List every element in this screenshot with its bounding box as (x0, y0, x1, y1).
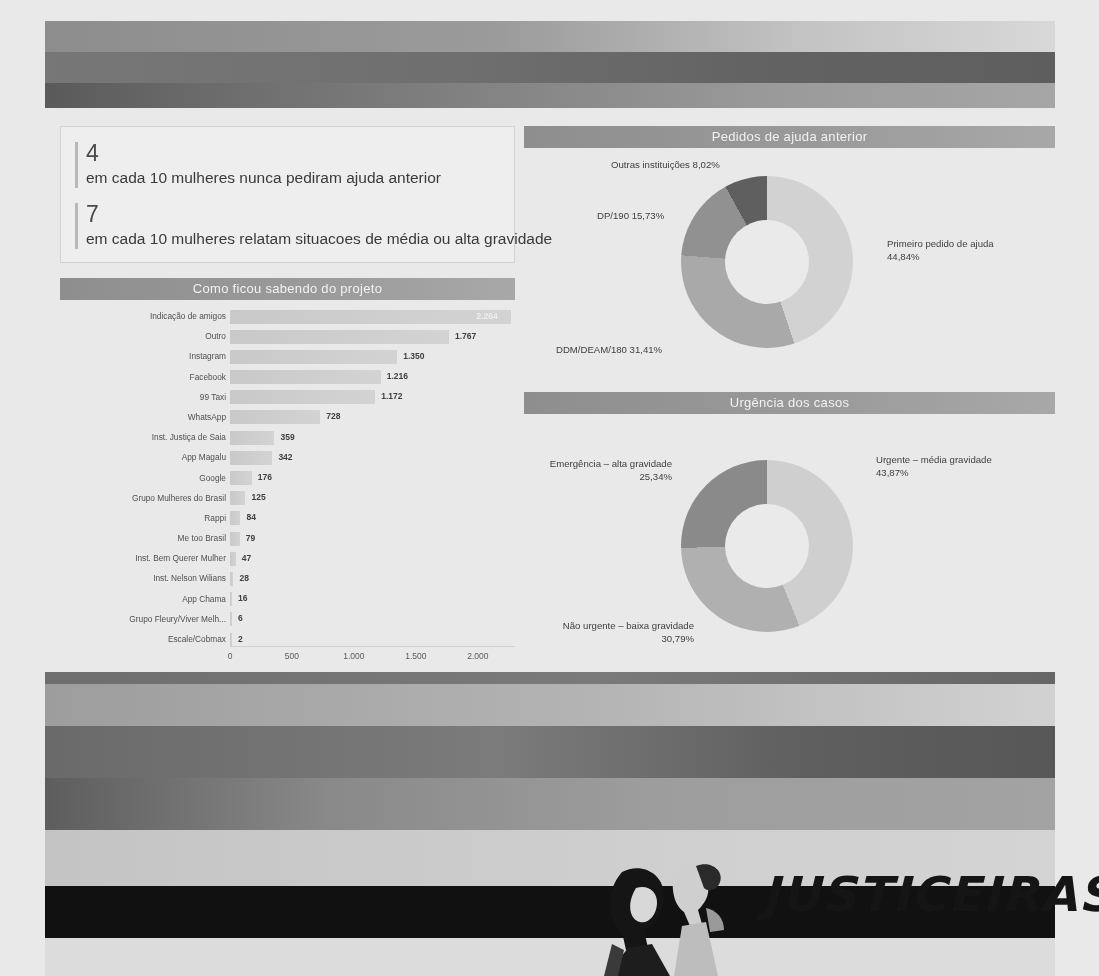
bar-fill (230, 612, 232, 626)
footer-band-2 (45, 684, 1055, 726)
bar-category-label: Inst. Bem Querer Mulher (56, 553, 226, 563)
bar-value-label: 28 (239, 573, 248, 583)
bar-value-label: 125 (251, 492, 265, 502)
bar-category-label: Outro (56, 331, 226, 341)
donut2-label-urgente: Urgente – média gravidade 43,87% (876, 454, 992, 479)
donut2-label-emergencia: Emergência – alta gravidade 25,34% (524, 458, 672, 483)
bar-row: Inst. Bem Querer Mulher47 (60, 550, 515, 570)
bar-track (230, 471, 515, 485)
donut1-hole (725, 220, 809, 304)
bar-fill (230, 633, 232, 647)
header-banner (45, 21, 1055, 108)
donut2-hole (725, 504, 809, 588)
bar-track (230, 532, 515, 546)
footer-band-3 (45, 726, 1055, 778)
bar-value-label: 176 (258, 472, 272, 482)
bar-fill (230, 330, 449, 344)
bar-category-label: Rappi (56, 513, 226, 523)
bar-category-label: Grupo Fleury/Viver Melh... (56, 614, 226, 624)
bar-value-label: 2.264 (477, 311, 498, 321)
bar-value-label: 84 (246, 512, 255, 522)
bar-track (230, 612, 515, 626)
bar-row: Me too Brasil79 (60, 530, 515, 550)
kpi-item-2: 7 em cada 10 mulheres relatam situacoes … (75, 201, 552, 249)
bar-track (230, 633, 515, 647)
kpi-text: em cada 10 mulheres nunca pediram ajuda … (86, 168, 441, 188)
bar-fill (230, 532, 240, 546)
bar-row: Grupo Fleury/Viver Melh...6 (60, 611, 515, 631)
header-band-3 (45, 83, 1055, 108)
axis-tick-label: 2.000 (467, 651, 488, 661)
donut1-label-outras: Outras instituições 8,02% (611, 159, 720, 172)
bar-value-label: 1.216 (387, 371, 408, 381)
bar-value-label: 6 (238, 613, 243, 623)
bar-category-label: Instagram (56, 351, 226, 361)
bar-fill (230, 572, 233, 586)
bar-fill (230, 471, 252, 485)
bar-row: Google176 (60, 470, 515, 490)
bar-track (230, 572, 515, 586)
bar-track (230, 491, 515, 505)
bar-row: WhatsApp728 (60, 409, 515, 429)
bar-fill (230, 350, 397, 364)
bar-category-label: Google (56, 473, 226, 483)
kpi-number: 4 (86, 140, 441, 166)
bar-category-label: App Chama (56, 594, 226, 604)
bar-row: Inst. Nelson Wilians28 (60, 570, 515, 590)
kpi-text: em cada 10 mulheres relatam situacoes de… (86, 229, 552, 249)
donut1-label-dp190: DP/190 15,73% (597, 210, 664, 223)
logo-wordmark: JUSTICEIRAS (765, 866, 1099, 922)
two-women-illustration (578, 852, 758, 976)
bar-category-label: Escale/Cobmax (56, 634, 226, 644)
bar-fill (230, 410, 320, 424)
donut2-label-naourgente: Não urgente – baixa gravidade 30,79% (519, 620, 694, 645)
kpi-card: 4 em cada 10 mulheres nunca pediram ajud… (60, 126, 515, 263)
bar-value-label: 79 (246, 533, 255, 543)
bar-category-label: WhatsApp (56, 412, 226, 422)
bar-chart-title: Como ficou sabendo do projeto (60, 278, 515, 300)
donut2-ring (681, 460, 853, 632)
donut1-label-primeiro: Primeiro pedido de ajuda 44,84% (887, 238, 994, 263)
donut-chart-panel-urgencia: Urgência dos casos Emergência – alta gra… (524, 392, 1055, 660)
bar-track (230, 410, 515, 424)
bar-category-label: 99 Taxi (56, 392, 226, 402)
dashboard-page: 4 em cada 10 mulheres nunca pediram ajud… (0, 0, 1099, 976)
bar-track (230, 451, 515, 465)
bar-category-label: Facebook (56, 372, 226, 382)
donut1-label-ddmdeam: DDM/DEAM/180 31,41% (556, 344, 662, 357)
bar-fill (230, 390, 375, 404)
bar-track (230, 431, 515, 445)
bar-row: Facebook1.216 (60, 369, 515, 389)
kpi-number: 7 (86, 201, 552, 227)
bar-value-label: 1.350 (403, 351, 424, 361)
donut2-title: Urgência dos casos (524, 392, 1055, 414)
bar-value-label: 728 (326, 411, 340, 421)
bar-category-label: Inst. Justiça de Saia (56, 432, 226, 442)
bar-category-label: App Magalu (56, 452, 226, 462)
axis-tick-label: 1.500 (405, 651, 426, 661)
bar-fill (230, 451, 272, 465)
donut1-ring (681, 176, 853, 348)
axis-tick-label: 1.000 (343, 651, 364, 661)
bar-track (230, 370, 515, 384)
bar-track (230, 592, 515, 606)
bar-row: Outro1.767 (60, 328, 515, 348)
bar-category-label: Me too Brasil (56, 533, 226, 543)
axis-tick-label: 500 (285, 651, 299, 661)
bar-value-label: 2 (238, 634, 243, 644)
bar-category-label: Grupo Mulheres do Brasil (56, 493, 226, 503)
bar-row: Indicação de amigos2.264 (60, 308, 515, 328)
bar-row: App Chama16 (60, 591, 515, 611)
bar-row: Grupo Mulheres do Brasil125 (60, 490, 515, 510)
bar-row: 99 Taxi1.172 (60, 389, 515, 409)
bar-fill (230, 552, 236, 566)
bar-fill (230, 491, 245, 505)
kpi-item-1: 4 em cada 10 mulheres nunca pediram ajud… (75, 140, 441, 188)
axis-line (230, 646, 515, 647)
bar-fill (230, 592, 232, 606)
bar-track (230, 350, 515, 364)
bar-track (230, 390, 515, 404)
bar-track (230, 552, 515, 566)
bar-track (230, 511, 515, 525)
bar-value-label: 1.172 (381, 391, 402, 401)
